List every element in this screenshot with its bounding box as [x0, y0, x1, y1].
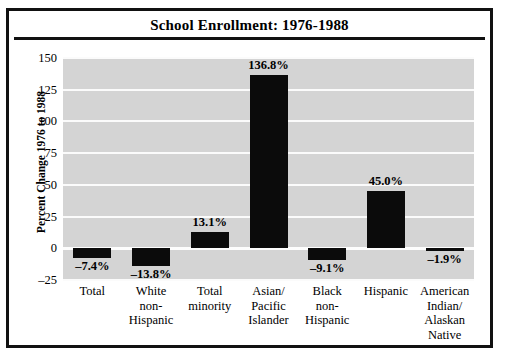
- x-axis-category-line: Hispanic: [305, 313, 349, 328]
- x-axis-category-line: non-: [129, 299, 173, 314]
- bar: [73, 248, 111, 257]
- x-axis-category-line: Total: [80, 284, 106, 299]
- y-axis-tick-label: 100: [17, 114, 57, 129]
- y-axis-tick-label: 25: [17, 209, 57, 224]
- bar: [367, 191, 405, 248]
- chart-figure-frame: School Enrollment: 1976-1988 Percent Cha…: [6, 8, 493, 348]
- x-axis-category-line: non-: [305, 299, 349, 314]
- chart-title: School Enrollment: 1976-1988: [10, 17, 489, 34]
- x-axis-category-line: Indian/: [420, 299, 469, 314]
- y-axis-tick-label: 0: [17, 241, 57, 256]
- x-axis-category-label: Blacknon-Hispanic: [305, 284, 349, 328]
- x-axis-category-label: Hispanic: [364, 284, 408, 299]
- gridline: [63, 279, 474, 281]
- x-axis-category-line: Total: [188, 284, 231, 299]
- bar: [426, 248, 464, 251]
- bar: [250, 75, 288, 249]
- x-axis-category-line: Alaskan: [420, 313, 469, 328]
- bar-value-label: –1.9%: [427, 252, 461, 267]
- x-axis-labels: TotalWhitenon-HispanicTotalminorityAsian…: [63, 284, 474, 346]
- x-axis-category-line: American: [420, 284, 469, 299]
- y-axis-tick-label: 75: [17, 146, 57, 161]
- x-axis-category-line: Pacific: [248, 299, 288, 314]
- x-axis-category-label: Asian/PacificIslander: [248, 284, 288, 328]
- x-axis-category-line: Black: [305, 284, 349, 299]
- x-axis-category-label: AmericanIndian/AlaskanNative: [420, 284, 469, 342]
- x-axis-category-label: Totalminority: [188, 284, 231, 313]
- x-axis-category-line: Hispanic: [364, 284, 408, 299]
- bar-value-label: 45.0%: [369, 174, 403, 189]
- x-axis-category-line: Islander: [248, 313, 288, 328]
- bar-value-label: –7.4%: [75, 259, 109, 274]
- title-divider: [14, 37, 485, 40]
- y-axis-tick-label: –25: [17, 273, 57, 288]
- y-axis-tick-label: 125: [17, 82, 57, 97]
- bar: [308, 248, 346, 260]
- x-axis-category-label: Whitenon-Hispanic: [129, 284, 173, 328]
- plot-area: 1501251007550250–25–7.4%–13.8%13.1%136.8…: [63, 58, 474, 280]
- bar: [191, 232, 229, 249]
- x-axis-category-label: Total: [80, 284, 106, 299]
- x-axis-category-line: White: [129, 284, 173, 299]
- bar-value-label: –13.8%: [131, 267, 172, 282]
- bar-value-label: –9.1%: [310, 261, 344, 276]
- x-axis-category-line: Native: [420, 328, 469, 343]
- x-axis-category-line: Asian/: [248, 284, 288, 299]
- y-axis-tick-label: 150: [17, 51, 57, 66]
- x-axis-category-line: minority: [188, 299, 231, 314]
- bar-value-label: 136.8%: [248, 58, 289, 73]
- x-axis-category-line: Hispanic: [129, 313, 173, 328]
- y-axis-title: Percent Change 1976 to 1988: [35, 72, 47, 252]
- bar-value-label: 13.1%: [193, 215, 227, 230]
- chart-figure-inner: School Enrollment: 1976-1988 Percent Cha…: [9, 11, 490, 345]
- bar: [132, 248, 170, 266]
- y-axis-tick-label: 50: [17, 177, 57, 192]
